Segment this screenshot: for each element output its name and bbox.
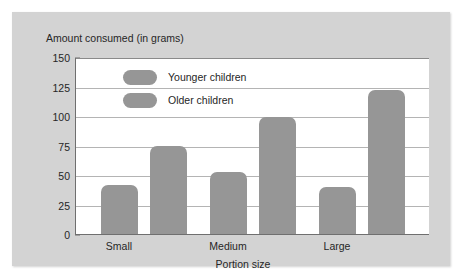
y-tick-0: 0	[64, 229, 70, 241]
gridline-150	[76, 58, 429, 59]
bar-medium-older	[259, 117, 296, 234]
x-axis-title: Portion size	[216, 258, 271, 270]
y-tick-25: 25	[58, 200, 70, 212]
x-category-small: Small	[106, 240, 132, 252]
legend-entry-older: Older children	[123, 91, 246, 109]
legend-swatch-older	[123, 93, 157, 108]
chart-legend: Younger children Older children	[123, 68, 246, 114]
y-tick-125: 125	[52, 82, 70, 94]
chart-panel: Amount consumed (in grams) 150 125 100 7…	[12, 12, 450, 266]
x-category-large: Large	[324, 240, 351, 252]
legend-swatch-younger	[123, 70, 157, 85]
legend-entry-younger: Younger children	[123, 68, 246, 86]
y-axis-title: Amount consumed (in grams)	[46, 32, 184, 44]
y-tick-75: 75	[58, 141, 70, 153]
x-category-medium: Medium	[209, 240, 246, 252]
y-tick-150: 150	[52, 52, 70, 64]
bar-small-older	[150, 146, 187, 234]
bar-chart-figure: Amount consumed (in grams) 150 125 100 7…	[0, 0, 463, 278]
legend-label-older: Older children	[168, 94, 233, 106]
y-tick-100: 100	[52, 111, 70, 123]
bar-large-younger	[319, 187, 356, 234]
plot-area: Younger children Older children	[75, 58, 429, 235]
bar-medium-younger	[210, 172, 247, 234]
y-tick-50: 50	[58, 170, 70, 182]
legend-label-younger: Younger children	[168, 71, 246, 83]
bar-large-older	[368, 90, 405, 234]
y-axis-tick-labels: 150 125 100 75 50 25 0	[36, 58, 70, 235]
bar-small-younger	[101, 185, 138, 234]
